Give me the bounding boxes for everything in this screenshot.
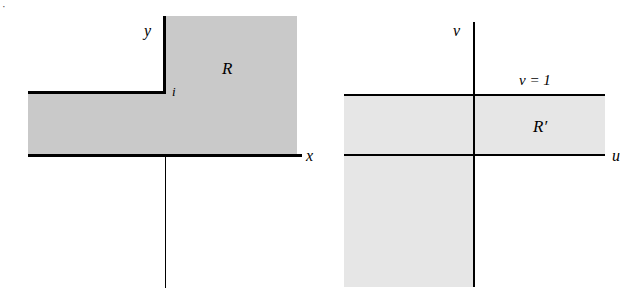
v-axis-label: v	[453, 23, 460, 39]
y-axis-lower-extension	[165, 155, 166, 288]
corner-artifact-mark: ·	[2, 0, 6, 12]
region-r-label: R	[222, 60, 232, 77]
boundary-y-axis-upper	[163, 16, 166, 94]
region-r-left-strip	[28, 92, 165, 155]
mapping-figure: · y x i R v	[0, 0, 640, 301]
v-axis	[473, 22, 475, 287]
boundary-equation-label: v = 1	[519, 73, 551, 88]
y-axis-label: y	[144, 23, 151, 39]
point-i-label: i	[172, 85, 176, 98]
region-r-right-block	[165, 16, 297, 155]
x-axis-label: x	[306, 148, 313, 164]
u-axis-label: u	[612, 148, 620, 164]
boundary-line-y-equals-1	[28, 91, 166, 94]
region-rprime-lower-block	[344, 155, 474, 287]
region-rprime-label: R′	[533, 118, 547, 135]
